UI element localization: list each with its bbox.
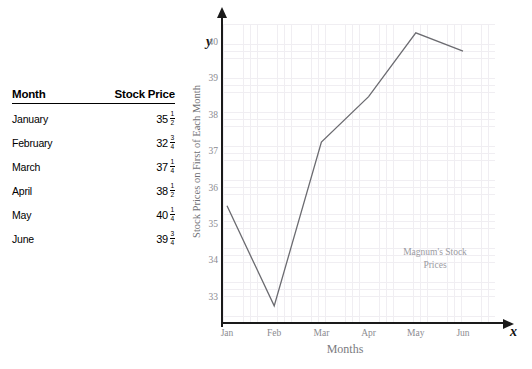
table-row: February3234: [12, 131, 175, 155]
table-body: January3512February3234March3714April381…: [12, 107, 175, 251]
cell-month: June: [12, 233, 34, 245]
stock-price-table: Month Stock Price January3512February323…: [12, 88, 175, 251]
table-row: June3934: [12, 227, 175, 251]
cell-month: January: [12, 113, 48, 125]
column-header-month: Month: [12, 88, 45, 100]
table-row: May4014: [12, 203, 175, 227]
stock-price-line: [227, 33, 463, 306]
stock-price-line-chart: y x 3334353637383940 JanFebMarAprMayJun …: [165, 4, 530, 366]
table-row: January3512: [12, 107, 175, 131]
table-row: March3714: [12, 155, 175, 179]
table-header-rule: [12, 103, 175, 104]
table-row: April3812: [12, 179, 175, 203]
table-header-row: Month Stock Price: [12, 88, 175, 103]
data-series-svg: [165, 4, 530, 366]
cell-month: May: [12, 209, 31, 221]
cell-month: February: [12, 137, 52, 149]
cell-month: April: [12, 185, 32, 197]
cell-month: March: [12, 161, 40, 173]
